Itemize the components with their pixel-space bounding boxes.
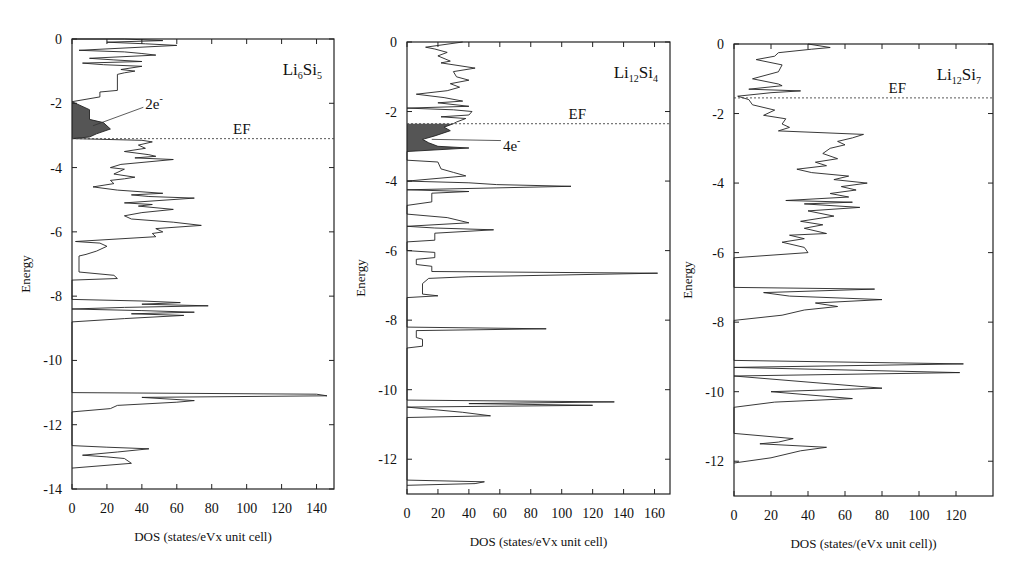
y-tick-label: -12 — [378, 452, 397, 467]
y-tick-label: -2 — [50, 96, 62, 111]
y-tick-label: 0 — [717, 37, 724, 52]
y-tick-label: -4 — [712, 176, 724, 191]
dos-curve — [72, 39, 327, 468]
y-tick-label: -4 — [50, 161, 62, 176]
x-tick-label: 0 — [69, 501, 76, 516]
y-tick-label: -2 — [712, 107, 724, 122]
x-tick-label: 40 — [135, 501, 149, 516]
x-tick-label: 120 — [946, 508, 967, 523]
y-tick-label: 0 — [55, 32, 62, 47]
x-tick-label: 0 — [404, 506, 411, 521]
x-tick-label: 120 — [582, 506, 603, 521]
x-tick-label: 100 — [909, 508, 930, 523]
x-tick-label: 80 — [205, 501, 219, 516]
y-tick-label: -14 — [43, 482, 62, 497]
x-tick-label: 60 — [838, 508, 852, 523]
dos-panel-2: EF0204060801001201401600-2-4-6-8-10-12DO… — [353, 35, 670, 549]
y-axis-title: Energy — [18, 255, 33, 293]
y-tick-label: -6 — [385, 244, 397, 259]
y-tick-label: -2 — [385, 105, 397, 120]
x-tick-label: 140 — [613, 506, 634, 521]
fermi-label: EF — [233, 121, 251, 137]
x-tick-label: 20 — [100, 501, 114, 516]
x-tick-label: 80 — [524, 506, 538, 521]
dos-curve — [407, 42, 658, 485]
y-tick-label: -8 — [385, 313, 397, 328]
x-tick-label: 40 — [462, 506, 476, 521]
x-tick-label: 60 — [493, 506, 507, 521]
plot-frame — [72, 39, 334, 489]
compound-label: Li12Si7 — [937, 65, 981, 86]
x-tick-label: 20 — [431, 506, 445, 521]
x-tick-label: 140 — [306, 501, 327, 516]
y-axis-title: Energy — [680, 261, 695, 299]
y-tick-label: 0 — [390, 35, 397, 50]
annotation-leader — [432, 139, 501, 140]
x-axis-title: DOS (states/eVx unit cell) — [470, 534, 608, 549]
x-tick-label: 80 — [875, 508, 889, 523]
x-tick-label: 0 — [731, 508, 738, 523]
y-axis-title: Energy — [353, 259, 368, 297]
y-tick-label: -6 — [50, 225, 62, 240]
y-tick-label: -10 — [378, 383, 397, 398]
y-tick-label: -10 — [43, 353, 62, 368]
compound-label: Li6Si5 — [283, 60, 322, 81]
y-tick-label: -8 — [50, 289, 62, 304]
dos-panel-3: EF0204060801001200-2-4-6-8-10-12DOS (sta… — [680, 37, 993, 551]
dos-figure: EF0204060801001201400-2-4-6-8-10-12-14DO… — [0, 0, 1013, 569]
dos-curve — [734, 44, 963, 463]
y-tick-label: -6 — [712, 246, 724, 261]
fermi-label: EF — [889, 80, 907, 96]
electron-count-label: 2e- — [145, 93, 163, 112]
x-tick-label: 120 — [271, 501, 292, 516]
y-tick-label: -4 — [385, 174, 397, 189]
y-tick-label: -10 — [705, 385, 724, 400]
y-tick-label: -8 — [712, 315, 724, 330]
x-tick-label: 100 — [551, 506, 572, 521]
y-tick-label: -12 — [43, 418, 62, 433]
x-tick-label: 60 — [170, 501, 184, 516]
x-axis-title: DOS (states/eVx unit cell) — [134, 529, 272, 544]
fermi-label: EF — [569, 106, 587, 122]
x-axis-title: DOS (states/(eVx unit cell)) — [790, 536, 936, 551]
x-tick-label: 160 — [644, 506, 665, 521]
dos-panel-1: EF0204060801001201400-2-4-6-8-10-12-14DO… — [18, 32, 334, 544]
electron-count-label: 4e- — [503, 135, 521, 154]
y-tick-label: -12 — [705, 454, 724, 469]
compound-label: Li12Si4 — [614, 63, 658, 84]
annotation-leader — [93, 107, 143, 126]
x-tick-label: 100 — [236, 501, 257, 516]
x-tick-label: 20 — [764, 508, 778, 523]
plot-frame — [734, 44, 993, 496]
x-tick-label: 40 — [801, 508, 815, 523]
